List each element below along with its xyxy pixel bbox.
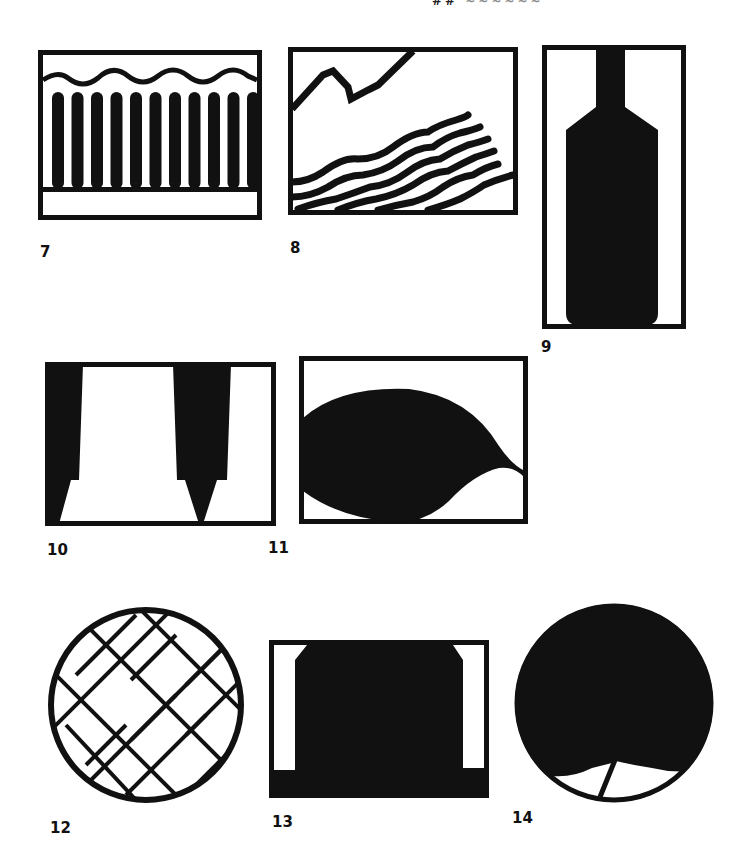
figure-label: 14: [512, 809, 533, 827]
figure-label: 10: [47, 541, 68, 559]
figure-label: 13: [272, 813, 293, 831]
figure-14: [512, 603, 716, 803]
figure-11: [299, 356, 528, 524]
page-header-fragment: ## ~~~~~~: [432, 0, 544, 8]
figure-10: [45, 362, 276, 526]
block-shape-icon: [269, 640, 489, 798]
tapered-pillars-icon: [45, 362, 276, 526]
figure-8: [288, 47, 518, 215]
figure-label: 9: [541, 338, 551, 356]
figure-12: [46, 605, 246, 805]
tree-canopy-circle-icon: [512, 603, 716, 803]
comb-bar: [52, 92, 64, 189]
comb-bar: [189, 92, 201, 189]
figure-label: 11: [268, 539, 289, 557]
figure-label: 12: [50, 819, 71, 837]
bottle-icon: [542, 45, 686, 329]
comb-bar: [130, 92, 142, 189]
comb-bar: [169, 92, 181, 189]
figure-13: [269, 640, 489, 798]
crosshatch-circle-icon: [46, 605, 246, 805]
figure-7: [38, 50, 262, 220]
comb-bar: [72, 92, 84, 189]
comb-bar: [111, 92, 123, 189]
comb-bar: [247, 92, 259, 189]
figure-label: 7: [40, 243, 50, 261]
comb-bar: [91, 92, 103, 189]
figure-9: [542, 45, 686, 329]
leaf-shape-icon: [299, 356, 528, 524]
comb-bar: [228, 92, 240, 189]
waves-over-comb-icon: [38, 50, 262, 220]
mountain-and-waves-icon: [288, 47, 518, 215]
figure-label: 8: [290, 239, 300, 257]
comb-bar: [150, 92, 162, 189]
comb-bar: [208, 92, 220, 189]
